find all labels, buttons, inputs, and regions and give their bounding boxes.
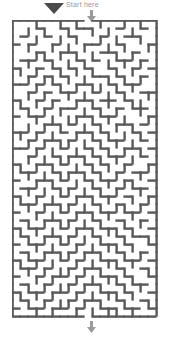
maze-wall (59, 155, 61, 164)
maze-wall (99, 203, 101, 212)
maze-wall (115, 171, 117, 180)
maze-wall (155, 91, 157, 100)
maze-wall (59, 51, 61, 60)
maze-wall (12, 171, 14, 180)
maze-wall (67, 107, 76, 109)
maze-grid[interactable] (12, 20, 160, 318)
maze-wall (83, 203, 85, 212)
maze-wall (59, 83, 61, 92)
maze-wall (139, 131, 141, 140)
maze-wall (27, 283, 29, 292)
maze-wall (67, 20, 76, 22)
maze-wall (75, 163, 77, 172)
maze-wall (147, 259, 156, 261)
maze-wall (27, 219, 29, 228)
maze-wall (19, 259, 21, 268)
maze-wall (35, 35, 37, 44)
maze-wall (27, 251, 29, 260)
maze-wall (139, 187, 141, 196)
maze-wall (99, 99, 108, 101)
maze-wall (91, 20, 100, 22)
maze-wall (123, 283, 125, 292)
maze-wall (12, 203, 14, 212)
maze-wall (99, 83, 101, 92)
maze-wall (99, 75, 108, 77)
maze-wall (51, 20, 60, 22)
maze-wall (115, 35, 117, 44)
maze-wall (139, 107, 141, 116)
maze-wall (155, 219, 157, 228)
maze-wall (91, 131, 93, 140)
maze-wall (83, 91, 85, 100)
maze-wall (139, 235, 148, 237)
maze-wall (43, 171, 45, 180)
maze-wall (147, 267, 149, 276)
maze-wall (75, 20, 77, 29)
maze-wall (115, 67, 117, 76)
maze-wall (12, 59, 14, 68)
maze-wall (155, 51, 157, 60)
maze-wall (99, 107, 101, 116)
maze-wall (147, 227, 156, 229)
maze-wall (155, 275, 157, 284)
maze-wall (155, 155, 157, 164)
maze-wall (35, 195, 37, 204)
maze-wall (43, 203, 45, 212)
maze-wall (115, 155, 117, 164)
maze-wall (107, 179, 109, 188)
maze-wall (155, 67, 157, 76)
maze-wall (91, 83, 93, 92)
maze-wall (107, 259, 109, 268)
maze-wall (131, 195, 133, 204)
maze-wall (75, 147, 77, 156)
maze-wall (123, 195, 132, 197)
maze-wall (51, 211, 53, 220)
maze-wall (83, 107, 85, 116)
maze-wall (107, 20, 116, 22)
maze-wall (27, 20, 36, 22)
maze-wall (155, 203, 157, 212)
maze-wall (12, 155, 14, 164)
maze-wall (115, 107, 117, 116)
maze-wall (83, 43, 85, 52)
maze-wall (115, 27, 124, 29)
maze-wall (147, 163, 149, 172)
maze-wall (123, 299, 125, 308)
maze-wall (43, 75, 45, 84)
maze-wall (35, 163, 37, 172)
maze-wall (12, 107, 14, 116)
maze-wall (131, 171, 140, 173)
maze-wall (35, 115, 37, 124)
maze-wall (99, 299, 101, 308)
maze-wall (115, 83, 117, 92)
maze-wall (35, 307, 37, 316)
maze-wall (115, 203, 117, 212)
maze-wall (27, 171, 29, 180)
maze-wall (27, 139, 29, 148)
maze-wall (19, 163, 21, 172)
maze-wall (147, 43, 149, 52)
maze-wall (107, 307, 109, 316)
maze-wall (35, 275, 37, 284)
maze-wall (123, 235, 125, 244)
maze-wall (123, 267, 125, 276)
maze-wall (12, 83, 14, 92)
maze-wall (123, 131, 125, 140)
maze-wall (19, 315, 28, 317)
exit-down-arrow-icon (87, 319, 96, 331)
maze-board[interactable] (12, 20, 160, 318)
maze-wall (27, 43, 29, 52)
maze-wall (75, 259, 77, 268)
maze-wall (83, 299, 85, 308)
maze-wall (75, 115, 77, 124)
maze-wall (75, 291, 77, 300)
maze-wall (83, 283, 85, 292)
maze-wall (12, 283, 14, 292)
maze-wall (59, 315, 68, 317)
maze-wall (43, 267, 45, 276)
maze-wall (99, 315, 108, 317)
maze-wall (155, 291, 157, 300)
maze-wall (131, 291, 133, 300)
maze-wall (67, 219, 69, 228)
maze-wall (67, 235, 69, 244)
